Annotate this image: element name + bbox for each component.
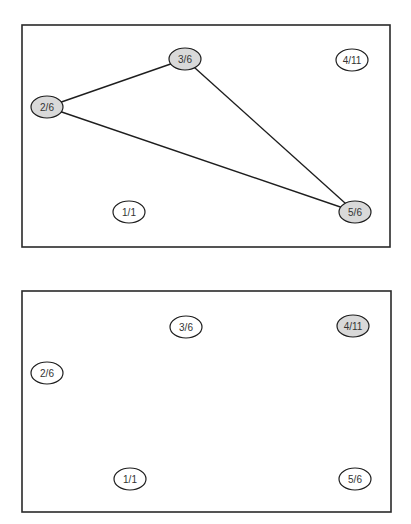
- node-label: 4/11: [344, 321, 363, 332]
- node-label: 5/6: [348, 474, 362, 485]
- node-label: 1/1: [122, 207, 136, 218]
- node-label: 4/11: [343, 55, 362, 66]
- node-label: 5/6: [348, 207, 362, 218]
- graph-diagram: 1/12/63/64/115/6 1/12/63/64/115/6: [0, 0, 411, 524]
- graph-node: 1/1: [113, 201, 145, 223]
- node-label: 3/6: [178, 54, 192, 65]
- node-label: 1/1: [123, 474, 137, 485]
- graph-node: 5/6: [339, 201, 371, 223]
- graph-node: 5/6: [339, 468, 371, 490]
- graph-node: 3/6: [169, 48, 201, 70]
- node-label: 3/6: [179, 322, 193, 333]
- bottom-graph-panel: 1/12/63/64/115/6: [22, 291, 391, 512]
- graph-node: 3/6: [170, 316, 202, 338]
- top-graph-panel: 1/12/63/64/115/6: [22, 25, 390, 247]
- graph-node: 2/6: [31, 96, 63, 118]
- graph-node: 4/11: [336, 49, 368, 71]
- graph-node: 4/11: [337, 315, 369, 337]
- top-panel-frame: [22, 25, 390, 247]
- node-label: 2/6: [40, 102, 54, 113]
- node-label: 2/6: [40, 368, 54, 379]
- graph-node: 1/1: [114, 468, 146, 490]
- graph-node: 2/6: [31, 362, 63, 384]
- bottom-panel-frame: [22, 291, 391, 512]
